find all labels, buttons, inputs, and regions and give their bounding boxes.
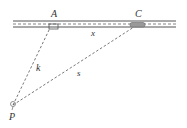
diagram-canvas: A C x k s P [0, 0, 187, 128]
label-P: P [8, 111, 15, 122]
label-A: A [50, 8, 58, 19]
label-x: x [90, 28, 95, 38]
person-icon-body [12, 107, 13, 111]
segment-k [13, 28, 50, 105]
label-C: C [135, 8, 142, 19]
segment-s [13, 27, 134, 105]
label-k: k [36, 62, 41, 73]
label-s: s [77, 68, 81, 78]
car-icon [130, 23, 145, 28]
road [13, 21, 176, 27]
